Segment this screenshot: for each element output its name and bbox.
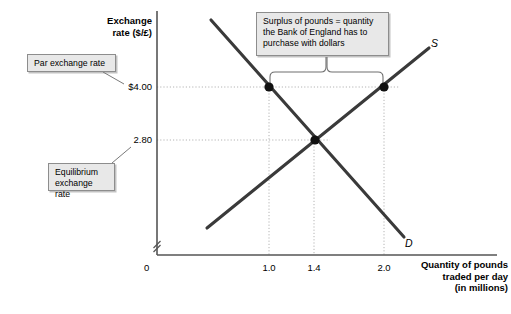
origin-label: 0: [144, 262, 149, 273]
marker-quantity-demanded-at-par: [264, 82, 273, 91]
supply-curve-label: S: [431, 37, 438, 49]
x-tick-label-1-0: 1.0: [249, 262, 289, 273]
marker-equilibrium-point: [310, 135, 319, 144]
y-tick-label-equilibrium: 2.80: [92, 134, 152, 145]
y-tick-label-par: $4.00: [92, 81, 152, 92]
x-tick-label-2-0: 2.0: [364, 262, 404, 273]
x-axis-title: Quantity of pounds traded per day (in mi…: [398, 259, 508, 294]
callout-equilibrium-exchange-rate: Equilibrium exchange rate: [48, 163, 115, 191]
y-axis-title: Exchange rate ($/£): [62, 15, 152, 38]
x-tick-label-1-4: 1.4: [294, 262, 334, 273]
leader-line-equilibrium: [112, 147, 131, 163]
surplus-brace: [270, 57, 383, 84]
marker-quantity-supplied-at-par: [379, 82, 388, 91]
callout-surplus-of-pounds: Surplus of pounds = quantity the Bank of…: [256, 12, 389, 56]
demand-curve-label: D: [405, 237, 413, 249]
callout-par-exchange-rate: Par exchange rate: [27, 54, 116, 72]
chart-figure: Exchange rate ($/£) Quantity of pounds t…: [0, 0, 511, 314]
